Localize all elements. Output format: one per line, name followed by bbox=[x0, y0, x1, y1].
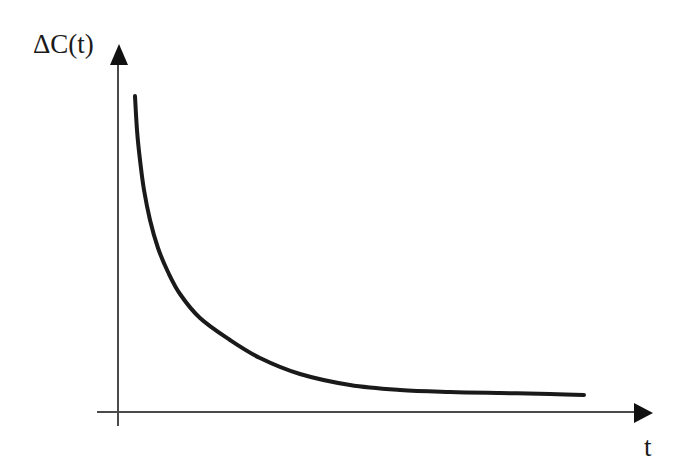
x-axis-label: t bbox=[644, 432, 652, 462]
x-axis-arrow-icon bbox=[634, 403, 653, 423]
decay-curve bbox=[135, 96, 584, 395]
decay-diagram: ΔC(t) t bbox=[0, 0, 688, 474]
y-axis-label: ΔC(t) bbox=[33, 29, 94, 59]
y-axis-arrow-icon bbox=[110, 44, 128, 65]
